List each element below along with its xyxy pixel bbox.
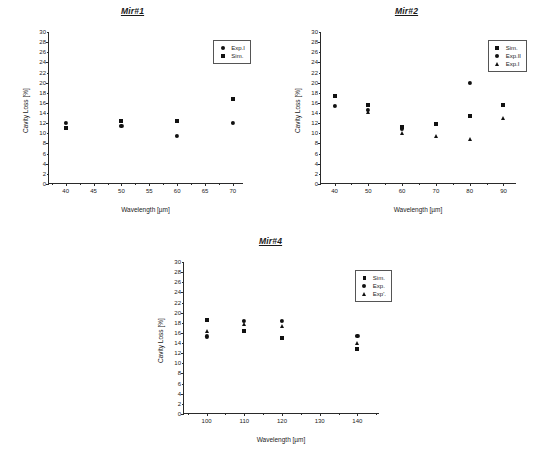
x-tick-label: 65 <box>202 188 209 194</box>
x-tick-label: 70 <box>433 188 440 194</box>
legend-mir4: Sim.Exp.Exp'. <box>355 270 392 302</box>
data-point-square <box>434 122 438 126</box>
y-tick-label: 12 <box>32 120 49 126</box>
y-tick-label: 30 <box>32 29 49 35</box>
legend-label: Sim. <box>373 275 385 281</box>
x-tick-mark <box>436 183 437 186</box>
data-point-triangle <box>501 116 505 120</box>
data-point-square <box>231 97 235 101</box>
legend-label: Exp.I <box>231 45 245 51</box>
x-tick-mark <box>233 183 234 186</box>
plot-title-mir2: Mir#2 <box>272 6 541 16</box>
y-tick-label: 30 <box>304 29 321 35</box>
legend-item[interactable]: Exp.I <box>218 44 245 52</box>
y-tick-label: 28 <box>304 39 321 45</box>
y-tick-label: 2 <box>304 171 321 177</box>
y-axis-label-mir4: Cavity Loss [%] <box>157 318 164 363</box>
legend-mir2: Sim.Exp.IIExp.I <box>488 40 527 72</box>
data-point-square <box>468 114 472 118</box>
y-tick-label: 24 <box>32 59 49 65</box>
y-tick-label: 28 <box>32 39 49 45</box>
legend-item[interactable]: Exp.II <box>493 52 521 60</box>
legend-item[interactable]: Sim. <box>218 52 245 60</box>
data-point-triangle <box>242 322 246 326</box>
x-tick-mark-minor <box>108 183 109 185</box>
legend-label: Sim. <box>231 53 243 59</box>
x-tick-mark <box>207 413 208 416</box>
y-tick-label: 18 <box>304 90 321 96</box>
y-tick-label: 4 <box>32 161 49 167</box>
x-tick-mark-minor <box>263 413 264 415</box>
data-point-circle <box>280 319 284 323</box>
y-tick-label: 30 <box>167 259 184 265</box>
y-tick-label: 22 <box>167 300 184 306</box>
y-tick-label: 10 <box>32 130 49 136</box>
y-tick-label: 14 <box>32 110 49 116</box>
plot-title-mir4: Mir#4 <box>135 236 406 246</box>
x-axis-label-mir4: Wavelength [µm] <box>257 436 306 443</box>
y-tick-label: 18 <box>32 90 49 96</box>
x-tick-mark <box>335 183 336 186</box>
y-tick-label: 20 <box>167 310 184 316</box>
chart-panel-mir2: Mir#202468101214161820222426283040506070… <box>272 6 541 234</box>
legend-item[interactable]: Sim. <box>360 274 386 282</box>
x-tick-mark <box>244 413 245 416</box>
x-tick-mark <box>368 183 369 186</box>
x-tick-mark-minor <box>188 413 189 415</box>
x-tick-label: 70 <box>230 188 237 194</box>
x-tick-label: 100 <box>202 418 212 424</box>
data-point-circle <box>175 134 179 138</box>
y-tick-label: 18 <box>167 320 184 326</box>
data-point-triangle <box>434 134 438 138</box>
x-tick-label: 40 <box>331 188 338 194</box>
y-tick-label: 12 <box>167 350 184 356</box>
data-point-circle <box>400 127 404 131</box>
x-tick-mark-minor <box>301 413 302 415</box>
plot-title-mir1: Mir#1 <box>0 6 265 16</box>
plot-axes-mir2: 024681012141618202224262830405060708090 <box>320 32 516 184</box>
legend-item[interactable]: Exp.I <box>493 60 521 68</box>
x-tick-mark <box>94 183 95 186</box>
x-tick-label: 90 <box>500 188 507 194</box>
data-point-triangle <box>205 329 209 333</box>
y-tick-label: 8 <box>32 140 49 146</box>
x-tick-label: 110 <box>240 418 250 424</box>
y-tick-label: 14 <box>167 340 184 346</box>
data-point-square <box>119 119 123 123</box>
legend-item[interactable]: Exp'. <box>360 290 386 298</box>
x-tick-mark-minor <box>135 183 136 185</box>
legend-label: Sim. <box>506 45 518 51</box>
y-tick-label: 6 <box>167 381 184 387</box>
legend-item[interactable]: Sim. <box>493 44 521 52</box>
legend-marker-circle-icon <box>218 46 227 50</box>
y-tick-label: 12 <box>304 120 321 126</box>
data-point-triangle <box>366 110 370 114</box>
y-tick-label: 28 <box>167 269 184 275</box>
y-tick-label: 16 <box>167 330 184 336</box>
legend-label: Exp. <box>373 283 385 289</box>
legend-marker-circle-icon <box>360 284 369 288</box>
y-tick-label: 10 <box>304 130 321 136</box>
y-tick-label: 16 <box>304 100 321 106</box>
x-axis-label-mir1: Wavelength [µm] <box>121 206 170 213</box>
y-tick-label: 8 <box>167 370 184 376</box>
y-tick-label: 16 <box>32 100 49 106</box>
data-point-circle <box>468 81 472 85</box>
x-tick-mark <box>177 183 178 186</box>
y-tick-label: 26 <box>32 49 49 55</box>
x-tick-mark-minor <box>225 413 226 415</box>
legend-item[interactable]: Exp. <box>360 282 386 290</box>
x-tick-label: 60 <box>174 188 181 194</box>
data-point-circle <box>332 104 336 108</box>
data-point-square <box>64 126 68 130</box>
legend-marker-square-icon <box>360 276 369 280</box>
x-tick-label: 45 <box>90 188 97 194</box>
y-axis-label-mir1: Cavity Loss [%] <box>22 88 29 133</box>
x-tick-mark <box>357 413 358 416</box>
legend-label: Exp.II <box>506 53 521 59</box>
x-tick-mark <box>149 183 150 186</box>
data-point-square <box>242 329 246 333</box>
y-tick-label: 2 <box>167 401 184 407</box>
y-tick-label: 20 <box>32 80 49 86</box>
data-point-triangle <box>280 324 284 328</box>
